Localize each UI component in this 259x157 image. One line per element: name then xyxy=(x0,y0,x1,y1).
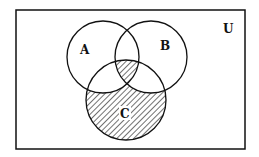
venn-diagram: A B C U xyxy=(0,0,259,157)
label-b: B xyxy=(160,39,170,53)
label-c: C xyxy=(120,107,130,121)
label-a: A xyxy=(79,43,90,57)
label-universe: U xyxy=(223,22,234,36)
